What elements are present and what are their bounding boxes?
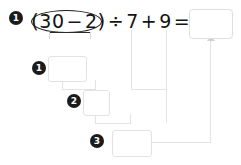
minus-operator: − [67, 10, 83, 32]
close-paren: ) [98, 9, 106, 33]
tick-under-operand-7 [131, 30, 132, 89]
problem-number-badge: 1 [9, 11, 23, 25]
connector-step3-to-answer [210, 40, 211, 143]
connector-step1-to-step2 [95, 80, 96, 90]
step-2-input-box[interactable] [83, 90, 110, 116]
equals-sign: = [174, 10, 190, 32]
brace-left-leg-icon [49, 32, 50, 39]
step-1-badge: 1 [32, 61, 46, 75]
connector-step3-rail [150, 142, 211, 143]
divide-operator: ÷ [108, 10, 124, 32]
operand-7: 7 [126, 10, 139, 32]
connector-step2-to-step3 [130, 114, 131, 124]
operand-9: 9 [159, 10, 172, 32]
operand-2: 2 [85, 10, 98, 32]
plus-operator: + [141, 10, 157, 32]
tick-under-operand-9 [166, 30, 167, 123]
answer-input-box[interactable] [189, 9, 233, 39]
connector-step2-rail [95, 123, 131, 124]
worksheet-canvas: 1 (30−2)÷7+9= 1 2 3 [0, 0, 241, 165]
step-2-badge: 2 [67, 94, 81, 108]
step-3-input-box[interactable] [112, 130, 152, 157]
step-1-input-box[interactable] [48, 56, 87, 82]
step-3-badge: 3 [90, 134, 104, 148]
math-expression: (30−2)÷7+9= [31, 9, 192, 33]
open-paren: ( [31, 9, 39, 33]
operand-30: 30 [39, 10, 64, 32]
tick-7-rail [131, 89, 167, 90]
brace-right-leg-icon [90, 32, 91, 39]
